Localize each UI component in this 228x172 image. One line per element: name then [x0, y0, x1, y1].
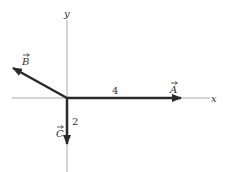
- vector-b-label: B: [21, 54, 30, 68]
- svg-text:C: C: [56, 128, 64, 139]
- svg-text:A: A: [169, 84, 177, 95]
- vector-a-magnitude: 4: [112, 85, 118, 96]
- vector-c-label: C: [56, 126, 64, 140]
- vector-a-label: A: [169, 82, 178, 96]
- x-axis-label: x: [211, 93, 217, 104]
- svg-text:B: B: [21, 56, 29, 67]
- vector-diagram: x y 4 A B 2 C: [0, 0, 228, 172]
- y-axis-label: y: [63, 8, 70, 19]
- vector-b-arrow: [13, 68, 67, 98]
- vector-c-magnitude: 2: [72, 116, 78, 127]
